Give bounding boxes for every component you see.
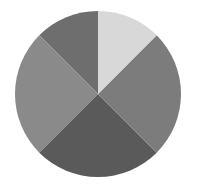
pie-chart <box>0 0 204 184</box>
